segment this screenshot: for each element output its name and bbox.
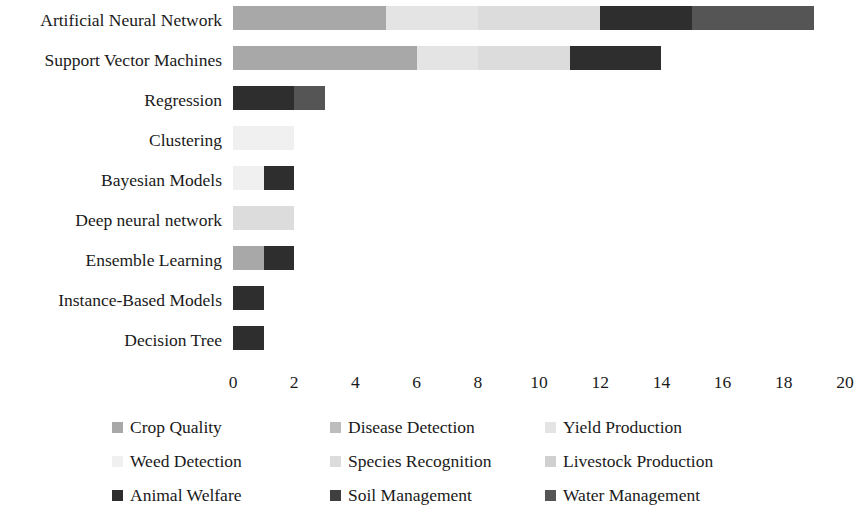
category-label: Instance-Based Models xyxy=(0,287,222,313)
bar-segment[interactable] xyxy=(233,326,264,350)
legend-item[interactable]: Livestock Production xyxy=(545,444,713,478)
legend-item[interactable]: Water Management xyxy=(545,478,700,512)
x-tick-label: 4 xyxy=(335,370,375,394)
category-label: Artificial Neural Network xyxy=(0,7,222,33)
legend-label: Species Recognition xyxy=(348,448,491,474)
bar-row: Decision Tree xyxy=(0,320,864,360)
legend-row: Animal WelfareSoil ManagementWater Manag… xyxy=(0,478,864,512)
legend-row: Crop QualityDisease DetectionYield Produ… xyxy=(0,410,864,444)
bar-row: Deep neural network xyxy=(0,200,864,240)
bar-segment[interactable] xyxy=(600,6,692,30)
legend-swatch-icon xyxy=(330,422,341,433)
legend-label: Yield Production xyxy=(563,414,682,440)
bar-segment[interactable] xyxy=(233,86,294,110)
stacked-bar[interactable] xyxy=(233,166,294,190)
x-tick-label: 16 xyxy=(703,370,743,394)
bar-row: Ensemble Learning xyxy=(0,240,864,280)
legend-swatch-icon xyxy=(330,490,341,501)
legend-item[interactable]: Disease Detection xyxy=(330,410,475,444)
stacked-bar[interactable] xyxy=(233,326,264,350)
bar-row: Instance-Based Models xyxy=(0,280,864,320)
bar-segment[interactable] xyxy=(233,246,264,270)
category-label: Decision Tree xyxy=(0,327,222,353)
legend-label: Weed Detection xyxy=(130,448,242,474)
x-tick-label: 20 xyxy=(825,370,864,394)
chart-legend: Crop QualityDisease DetectionYield Produ… xyxy=(0,410,864,513)
bar-segment[interactable] xyxy=(264,246,295,270)
x-tick-label: 10 xyxy=(519,370,559,394)
x-tick-label: 8 xyxy=(458,370,498,394)
legend-label: Water Management xyxy=(563,482,700,508)
bar-segment[interactable] xyxy=(233,286,264,310)
stacked-bar-chart: Artificial Neural NetworkSupport Vector … xyxy=(0,0,864,513)
stacked-bar[interactable] xyxy=(233,46,661,70)
category-label: Clustering xyxy=(0,127,222,153)
x-tick-label: 0 xyxy=(213,370,253,394)
bar-row: Regression xyxy=(0,80,864,120)
category-label: Deep neural network xyxy=(0,207,222,233)
bar-segment[interactable] xyxy=(233,166,264,190)
bar-segment[interactable] xyxy=(233,206,294,230)
legend-swatch-icon xyxy=(330,456,341,467)
legend-swatch-icon xyxy=(545,490,556,501)
category-label: Bayesian Models xyxy=(0,167,222,193)
legend-swatch-icon xyxy=(545,422,556,433)
bar-row: Clustering xyxy=(0,120,864,160)
x-tick-label: 14 xyxy=(641,370,681,394)
x-axis: 02468101214161820 xyxy=(0,368,864,398)
x-tick-label: 12 xyxy=(580,370,620,394)
legend-item[interactable]: Yield Production xyxy=(545,410,682,444)
stacked-bar[interactable] xyxy=(233,206,294,230)
legend-item[interactable]: Crop Quality xyxy=(112,410,222,444)
stacked-bar[interactable] xyxy=(233,246,294,270)
x-tick-label: 18 xyxy=(764,370,804,394)
legend-swatch-icon xyxy=(545,456,556,467)
legend-label: Soil Management xyxy=(348,482,472,508)
legend-swatch-icon xyxy=(112,456,123,467)
bar-segment[interactable] xyxy=(570,46,662,70)
bar-segment[interactable] xyxy=(417,46,478,70)
bar-segment[interactable] xyxy=(233,6,386,30)
bar-row: Artificial Neural Network xyxy=(0,0,864,40)
bar-segment[interactable] xyxy=(386,6,478,30)
category-label: Regression xyxy=(0,87,222,113)
legend-label: Disease Detection xyxy=(348,414,475,440)
bar-segment[interactable] xyxy=(478,46,570,70)
plot-area: Artificial Neural NetworkSupport Vector … xyxy=(0,0,864,368)
legend-label: Crop Quality xyxy=(130,414,222,440)
legend-item[interactable]: Species Recognition xyxy=(330,444,491,478)
bar-segment[interactable] xyxy=(294,86,325,110)
category-label: Ensemble Learning xyxy=(0,247,222,273)
legend-label: Animal Welfare xyxy=(130,482,242,508)
bar-row: Support Vector Machines xyxy=(0,40,864,80)
legend-swatch-icon xyxy=(112,422,123,433)
bar-row: Bayesian Models xyxy=(0,160,864,200)
legend-item[interactable]: Weed Detection xyxy=(112,444,242,478)
bar-segment[interactable] xyxy=(692,6,814,30)
bar-segment[interactable] xyxy=(233,46,417,70)
legend-item[interactable]: Animal Welfare xyxy=(112,478,242,512)
bar-segment[interactable] xyxy=(233,126,294,150)
legend-row: Weed DetectionSpecies RecognitionLivesto… xyxy=(0,444,864,478)
bar-segment[interactable] xyxy=(478,6,600,30)
x-tick-label: 2 xyxy=(274,370,314,394)
category-label: Support Vector Machines xyxy=(0,47,222,73)
stacked-bar[interactable] xyxy=(233,6,814,30)
legend-label: Livestock Production xyxy=(563,448,713,474)
legend-swatch-icon xyxy=(112,490,123,501)
stacked-bar[interactable] xyxy=(233,126,294,150)
legend-item[interactable]: Soil Management xyxy=(330,478,472,512)
stacked-bar[interactable] xyxy=(233,86,325,110)
stacked-bar[interactable] xyxy=(233,286,264,310)
x-tick-label: 6 xyxy=(397,370,437,394)
bar-segment[interactable] xyxy=(264,166,295,190)
